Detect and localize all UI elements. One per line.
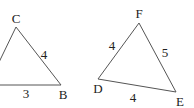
vertex-label-e: E bbox=[176, 94, 184, 108]
side-label-ab: 3 bbox=[23, 86, 30, 101]
vertex-label-b: B bbox=[59, 87, 68, 102]
vertex-label-c: C bbox=[12, 11, 21, 26]
side-label-df: 4 bbox=[109, 38, 116, 53]
triangle-abc: C B 4 3 bbox=[0, 11, 68, 102]
side-label-fe: 5 bbox=[162, 45, 169, 60]
vertex-label-d: D bbox=[93, 81, 102, 96]
side-label-cb: 4 bbox=[41, 47, 48, 62]
triangle-abc-shape bbox=[0, 27, 61, 85]
vertex-label-f: F bbox=[135, 6, 142, 21]
triangle-def: F D E 4 5 4 bbox=[93, 6, 184, 108]
side-label-de: 4 bbox=[130, 90, 137, 105]
triangles-diagram: C B 4 3 F D E 4 5 4 bbox=[0, 0, 194, 108]
